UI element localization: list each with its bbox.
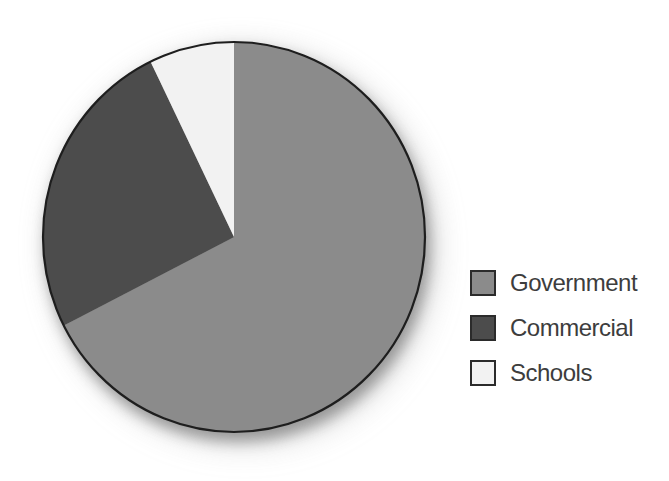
legend-item-government: Government [470,270,637,296]
pie-chart [0,0,669,481]
legend-item-commercial: Commercial [470,315,637,341]
legend-swatch-commercial [470,315,496,341]
legend-label-government: Government [510,270,637,296]
pie-slices [43,42,425,432]
legend-item-schools: Schools [470,360,637,386]
figure: Government Commercial Schools [0,0,669,481]
pie-group [43,42,425,432]
legend-swatch-government [470,270,496,296]
legend: Government Commercial Schools [470,270,637,386]
legend-label-schools: Schools [510,360,592,386]
legend-swatch-schools [470,360,496,386]
legend-label-commercial: Commercial [510,315,633,341]
